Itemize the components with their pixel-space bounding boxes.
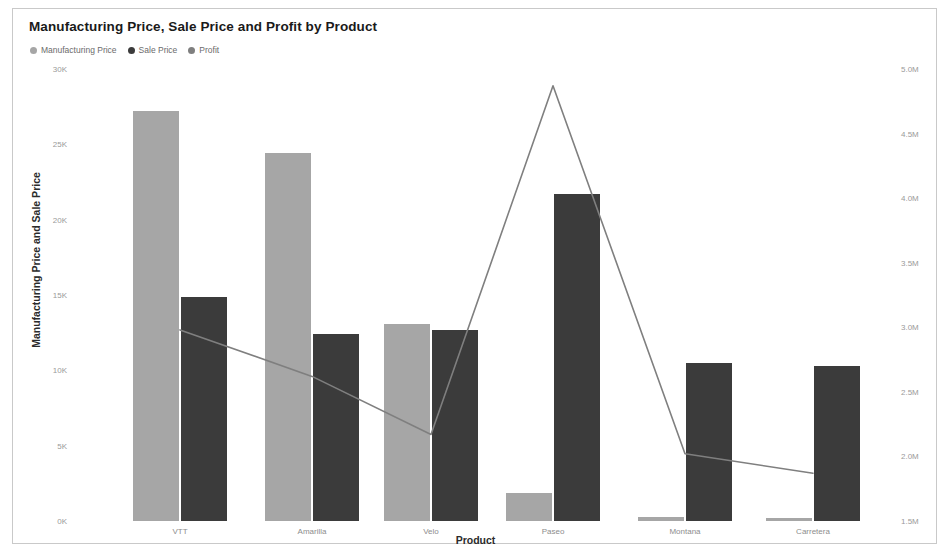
- y-axis-left-tick-label: 15K: [53, 291, 67, 300]
- y-axis-right-ticks: 1.5M2.0M2.5M3.0M3.5M4.0M4.5M5.0M: [901, 9, 941, 545]
- x-axis-title: Product: [13, 534, 938, 546]
- y-axis-left-tick-label: 25K: [53, 140, 67, 149]
- y-axis-right-tick-label: 3.0M: [901, 323, 919, 332]
- bar-sale-price-velo[interactable]: [432, 330, 478, 521]
- bar-manufacturing-price-montana[interactable]: [638, 517, 684, 521]
- bar-manufacturing-price-velo[interactable]: [384, 324, 430, 521]
- y-axis-left-tick-label: 30K: [53, 65, 67, 74]
- bar-manufacturing-price-vtt[interactable]: [133, 111, 179, 521]
- plot-area: Manufacturing Price and Sale Price 0K5K1…: [13, 9, 938, 545]
- bar-sale-price-carretera[interactable]: [814, 366, 860, 521]
- bar-manufacturing-price-paseo[interactable]: [506, 493, 552, 521]
- y-axis-right-tick-label: 5.0M: [901, 65, 919, 74]
- bar-sale-price-paseo[interactable]: [554, 194, 600, 521]
- y-axis-right-tick-label: 4.0M: [901, 194, 919, 203]
- y-axis-left-tick-label: 0K: [57, 517, 67, 526]
- y-axis-left-tick-label: 10K: [53, 366, 67, 375]
- y-axis-left-tick-label: 5K: [57, 441, 67, 450]
- bar-sale-price-vtt[interactable]: [181, 297, 227, 521]
- bar-sale-price-montana[interactable]: [686, 363, 732, 521]
- y-axis-right-tick-label: 1.5M: [901, 517, 919, 526]
- bar-sale-price-amarilla[interactable]: [313, 334, 359, 521]
- y-axis-right-tick-label: 2.5M: [901, 387, 919, 396]
- y-axis-right-tick-label: 2.0M: [901, 452, 919, 461]
- y-axis-right-tick-label: 3.5M: [901, 258, 919, 267]
- bar-manufacturing-price-amarilla[interactable]: [265, 153, 311, 521]
- bar-manufacturing-price-carretera[interactable]: [766, 518, 812, 521]
- y-axis-right-tick-label: 4.5M: [901, 129, 919, 138]
- chart-card: Manufacturing Price, Sale Price and Prof…: [12, 8, 937, 544]
- y-axis-left-tick-label: 20K: [53, 215, 67, 224]
- y-axis-left-ticks: 0K5K10K15K20K25K30K: [31, 9, 67, 545]
